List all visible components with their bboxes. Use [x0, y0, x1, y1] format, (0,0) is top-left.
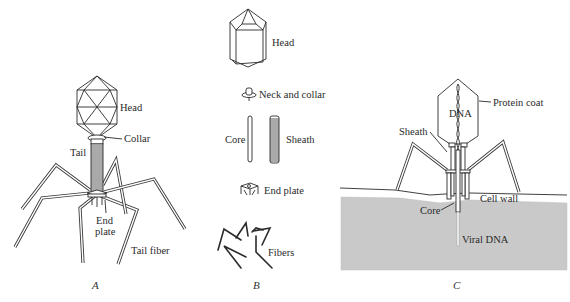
collar-right-c — [461, 143, 467, 147]
neck-collar-b — [242, 88, 256, 101]
label-cell-wall-c: Cell wall — [480, 193, 518, 204]
label-sheath-b: Sheath — [286, 134, 315, 145]
panel-a-intact-phage: Head Collar Tail End plate Tail fiber A — [15, 76, 185, 291]
core-tube-c — [456, 150, 460, 212]
tail-sheath-a — [91, 144, 103, 192]
label-head-b: Head — [272, 37, 295, 48]
collar-leader-a — [104, 137, 122, 139]
label-end-plate-b: End plate — [264, 185, 304, 196]
label-tail-a: Tail — [70, 147, 86, 158]
panel-c-infection: Protein coat DNA Sheath Cell wall Core V… — [340, 79, 567, 291]
viral-dna-strand-c — [457, 212, 459, 246]
label-end-plate-line1-a: End — [96, 215, 114, 226]
caption-a: A — [91, 279, 99, 291]
label-dna-c: DNA — [449, 108, 472, 119]
label-core-c: Core — [420, 205, 441, 216]
end-plate-b — [241, 183, 258, 195]
sheath-b — [270, 116, 279, 163]
end-plate-leader-a — [105, 200, 106, 213]
head-prism-b — [230, 9, 266, 67]
collar-left-c — [449, 143, 455, 147]
head-icosahedron-a — [77, 76, 117, 138]
bacteriophage-diagram: Head Collar Tail End plate Tail fiber A … — [0, 0, 570, 302]
protein-coat-leader — [479, 101, 491, 102]
fibers-b — [218, 223, 272, 268]
core-rod-b — [248, 116, 252, 162]
label-sheath-c: Sheath — [399, 126, 428, 137]
label-end-plate-line2-a: plate — [95, 226, 116, 237]
label-neck-and-collar-b: Neck and collar — [259, 89, 326, 100]
caption-b: B — [253, 279, 260, 291]
label-viral-dna-c: Viral DNA — [462, 234, 509, 245]
label-protein-coat-c: Protein coat — [493, 97, 544, 108]
label-fibers-b: Fibers — [268, 247, 294, 258]
caption-c: C — [453, 279, 461, 291]
label-core-b: Core — [225, 134, 246, 145]
label-head-a: Head — [120, 102, 143, 113]
panel-b-exploded-parts: Head Neck and collar Core — [218, 9, 326, 291]
collar-a — [88, 135, 106, 144]
cell-interior — [341, 197, 567, 270]
label-collar-a: Collar — [124, 133, 151, 144]
label-tail-fiber-a: Tail fiber — [131, 245, 170, 256]
